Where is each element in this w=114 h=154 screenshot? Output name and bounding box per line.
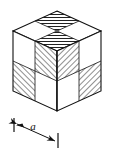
unit-cell-figure: a bbox=[0, 0, 114, 154]
cube-diagram: a bbox=[0, 0, 114, 154]
dimension-label: a bbox=[30, 120, 36, 132]
